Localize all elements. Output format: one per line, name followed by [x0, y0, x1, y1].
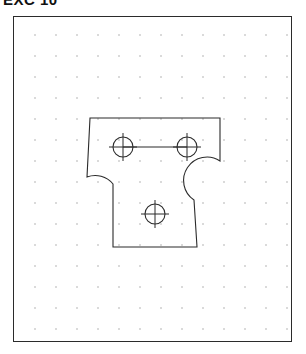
grid-dot: [139, 160, 140, 161]
grid-dot: [181, 328, 182, 329]
grid-dot: [244, 328, 245, 329]
grid-dot: [244, 76, 245, 77]
grid-dot: [181, 181, 182, 182]
grid-dot: [76, 55, 77, 56]
grid-dot: [286, 202, 287, 203]
grid-dot: [286, 55, 287, 56]
grid-dot: [202, 160, 203, 161]
page-title: EXC 10: [3, 0, 58, 8]
grid-dot: [160, 328, 161, 329]
grid-dot: [181, 34, 182, 35]
grid-dot: [202, 97, 203, 98]
grid-dot: [139, 76, 140, 77]
grid-dot: [76, 265, 77, 266]
grid-dot: [244, 160, 245, 161]
grid-dot: [118, 160, 119, 161]
grid-dot: [223, 286, 224, 287]
grid-dot: [160, 223, 161, 224]
grid-dot: [55, 286, 56, 287]
grid-dot: [55, 76, 56, 77]
grid-dot: [97, 55, 98, 56]
grid-dot: [265, 34, 266, 35]
grid-dot: [34, 160, 35, 161]
grid-dot: [76, 244, 77, 245]
grid-dot: [223, 76, 224, 77]
t-bracket-outline[interactable]: [87, 118, 220, 247]
grid-dot: [118, 55, 119, 56]
grid-dot: [34, 328, 35, 329]
grid-dot: [286, 160, 287, 161]
grid-dot: [181, 265, 182, 266]
grid-dot: [181, 160, 182, 161]
grid-dot: [223, 202, 224, 203]
grid-dot: [97, 139, 98, 140]
grid-dot: [76, 97, 77, 98]
grid-dot: [34, 286, 35, 287]
grid-dot: [34, 118, 35, 119]
grid-dot: [97, 328, 98, 329]
grid-dot: [286, 307, 287, 308]
grid-dot: [55, 118, 56, 119]
grid-dot: [76, 202, 77, 203]
grid-dot: [160, 55, 161, 56]
grid-dot: [181, 286, 182, 287]
grid-dot: [265, 328, 266, 329]
grid-dot: [160, 34, 161, 35]
grid-dot: [181, 202, 182, 203]
grid-dot: [160, 202, 161, 203]
grid-dot: [97, 223, 98, 224]
grid-dot: [223, 328, 224, 329]
page-title-clip: EXC 10: [0, 0, 306, 10]
grid-dot: [118, 244, 119, 245]
snap-grid: [34, 34, 287, 329]
grid-dot: [223, 181, 224, 182]
grid-dot: [286, 181, 287, 182]
grid-dot: [223, 244, 224, 245]
grid-dot: [202, 223, 203, 224]
grid-dot: [244, 139, 245, 140]
grid-dot: [244, 55, 245, 56]
hole-top-left[interactable]: [109, 133, 137, 161]
grid-dot: [265, 139, 266, 140]
grid-dot: [76, 76, 77, 77]
grid-dot: [265, 118, 266, 119]
grid-dot: [76, 160, 77, 161]
grid-dot: [244, 307, 245, 308]
grid-dot: [223, 160, 224, 161]
grid-dot: [55, 139, 56, 140]
grid-dot: [286, 76, 287, 77]
grid-dot: [97, 307, 98, 308]
grid-dot: [202, 139, 203, 140]
grid-dot: [202, 118, 203, 119]
hole-top-right[interactable]: [173, 133, 201, 161]
grid-dot: [55, 181, 56, 182]
grid-dot: [118, 286, 119, 287]
grid-dot: [139, 307, 140, 308]
grid-dot: [97, 160, 98, 161]
grid-dot: [202, 328, 203, 329]
grid-dot: [118, 118, 119, 119]
grid-dot: [34, 55, 35, 56]
grid-dot: [118, 181, 119, 182]
grid-dot: [286, 223, 287, 224]
grid-dot: [55, 307, 56, 308]
hole-bottom[interactable]: [141, 200, 169, 228]
drawing-canvas[interactable]: [14, 17, 292, 342]
grid-dot: [265, 55, 266, 56]
grid-dot: [97, 244, 98, 245]
drawing-border: [13, 16, 292, 342]
grid-dot: [181, 118, 182, 119]
grid-dot: [55, 97, 56, 98]
grid-dot: [265, 307, 266, 308]
grid-dot: [223, 265, 224, 266]
grid-dot: [34, 139, 35, 140]
grid-dot: [55, 265, 56, 266]
grid-dot: [97, 181, 98, 182]
grid-dot: [265, 265, 266, 266]
grid-dot: [160, 265, 161, 266]
grid-dot: [118, 202, 119, 203]
grid-dot: [223, 97, 224, 98]
grid-dot: [97, 76, 98, 77]
grid-dot: [265, 202, 266, 203]
grid-dot: [202, 307, 203, 308]
